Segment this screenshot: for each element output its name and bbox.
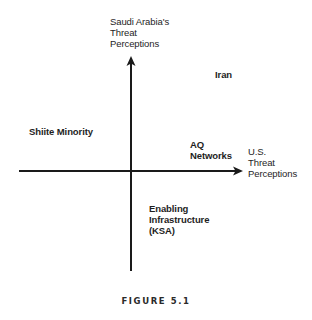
y-axis-label-line: Perceptions (110, 38, 169, 49)
figure-caption: FIGURE 5.1 (0, 296, 312, 306)
item-label: Shiite Minority (29, 126, 93, 137)
x-axis-label-line: Perceptions (248, 168, 297, 179)
item-aq-networks: AQ Networks (190, 139, 232, 161)
item-label: Iran (215, 69, 232, 80)
item-label: Infrastructure (149, 214, 209, 225)
y-axis-label-line: Saudi Arabia's (110, 16, 169, 27)
x-axis-label-line: Threat (248, 157, 297, 168)
y-axis-label: Saudi Arabia's Threat Perceptions (110, 16, 169, 49)
item-label: Networks (190, 150, 232, 161)
y-axis-label-line: Threat (110, 27, 169, 38)
item-iran: Iran (215, 69, 232, 80)
item-shiite-minority: Shiite Minority (29, 126, 93, 137)
item-label: Enabling (149, 203, 209, 214)
item-label: AQ (190, 139, 232, 150)
item-enabling-infrastructure: Enabling Infrastructure (KSA) (149, 203, 209, 236)
item-label: (KSA) (149, 225, 209, 236)
x-axis-label-line: U.S. (248, 146, 297, 157)
x-axis-label: U.S. Threat Perceptions (248, 146, 297, 179)
